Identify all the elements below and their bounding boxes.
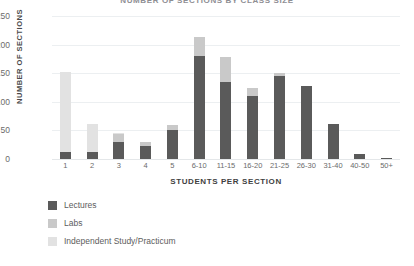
bar-segment[interactable] [247,96,258,159]
bar-stack[interactable] [87,124,98,159]
y-axis-tick-label: 250 [0,11,10,21]
bar-group[interactable] [346,16,373,159]
bar-segment[interactable] [354,154,365,159]
bar-segment[interactable] [274,76,285,159]
bar-group[interactable] [373,16,400,159]
bar-segment[interactable] [194,37,205,56]
bar-segment[interactable] [60,72,71,152]
x-axis-tick-label: 3 [106,161,133,170]
x-axis-title: STUDENTS PER SECTION [52,177,400,186]
bar-group[interactable] [79,16,106,159]
bar-stack[interactable] [60,72,71,159]
x-axis-tick-label: 26-30 [293,161,320,170]
legend-item[interactable]: Lectures [48,196,176,214]
bar-group[interactable] [186,16,213,159]
bar-segment[interactable] [167,130,178,159]
bar-stack[interactable] [113,133,124,159]
x-axis-tick-label: 11-15 [213,161,240,170]
y-axis-title: NUMBER OF SECTIONS [15,2,24,112]
bar-stack[interactable] [194,37,205,159]
y-axis-tick-label: 200 [0,40,10,50]
legend-swatch [48,237,57,246]
y-axis-tick-label: 100 [0,97,10,107]
bar-group[interactable] [106,16,133,159]
bar-segment[interactable] [140,146,151,159]
bar-group[interactable] [266,16,293,159]
legend-item[interactable]: Independent Study/Practicum [48,232,176,250]
bar-chart: NUMBER OF SECTIONS BY CLASS SIZE NUMBER … [0,0,414,266]
x-axis-ticks: 123456-1011-1516-2021-2526-3031-4040-505… [52,161,400,170]
legend: LecturesLabsIndependent Study/Practicum [48,196,176,250]
x-axis-tick-label: 21-25 [266,161,293,170]
bar-stack[interactable] [140,142,151,159]
bar-segment[interactable] [113,134,124,142]
y-axis-tick-label: 150 [0,68,10,78]
x-axis-tick-label: 5 [159,161,186,170]
y-axis-tick-label: 50 [0,125,10,135]
bar-segment[interactable] [381,158,392,159]
bar-segment[interactable] [87,152,98,159]
bar-segment[interactable] [328,124,339,159]
bar-group[interactable] [52,16,79,159]
bar-stack[interactable] [354,154,365,159]
y-axis-tick-label: 0 [0,154,10,164]
bar-stack[interactable] [167,125,178,159]
bar-segment[interactable] [87,124,98,152]
bar-group[interactable] [213,16,240,159]
x-axis-tick-label: 6-10 [186,161,213,170]
x-axis-tick-label: 31-40 [320,161,347,170]
x-axis-tick-label: 4 [132,161,159,170]
bar-stack[interactable] [381,158,392,159]
bar-segment[interactable] [220,57,231,82]
x-axis-tick-label: 40-50 [346,161,373,170]
bar-segment[interactable] [301,86,312,159]
bar-group[interactable] [293,16,320,159]
x-axis-tick-label: 50+ [373,161,400,170]
legend-label: Independent Study/Practicum [64,236,176,246]
bar-segment[interactable] [220,82,231,159]
bar-segment[interactable] [247,88,258,97]
legend-label: Lectures [64,200,97,210]
bar-group[interactable] [132,16,159,159]
x-axis-tick-label: 1 [52,161,79,170]
plot-area [52,16,400,159]
bar-group[interactable] [239,16,266,159]
bar-segment[interactable] [60,152,71,159]
bar-stack[interactable] [220,57,231,159]
legend-label: Labs [64,218,82,228]
bar-stack[interactable] [328,124,339,159]
gridline [52,159,400,160]
bar-group[interactable] [320,16,347,159]
bar-segment[interactable] [194,56,205,159]
chart-title: NUMBER OF SECTIONS BY CLASS SIZE [0,0,414,5]
x-axis-tick-label: 2 [79,161,106,170]
bar-stack[interactable] [301,86,312,159]
x-axis-tick-label: 16-20 [239,161,266,170]
legend-item[interactable]: Labs [48,214,176,232]
legend-swatch [48,201,57,210]
bar-stack[interactable] [274,73,285,159]
bar-segment[interactable] [113,142,124,159]
bar-series-container [52,16,400,159]
bar-group[interactable] [159,16,186,159]
legend-swatch [48,219,57,228]
bar-stack[interactable] [247,88,258,159]
